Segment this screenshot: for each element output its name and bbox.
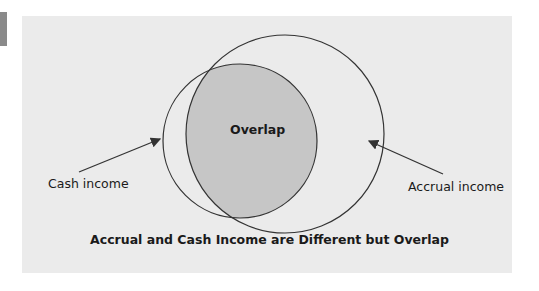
cash-income-arrow bbox=[79, 139, 160, 172]
venn-diagram bbox=[0, 0, 539, 291]
overlap-label: Overlap bbox=[230, 122, 285, 137]
accrual-income-label: Accrual income bbox=[408, 179, 504, 194]
accrual-income-arrow bbox=[369, 141, 443, 174]
cash-income-label: Cash income bbox=[48, 176, 129, 191]
diagram-caption: Accrual and Cash Income are Different bu… bbox=[0, 232, 539, 247]
